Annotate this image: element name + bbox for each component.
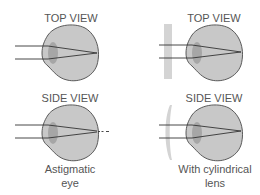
cylindrical-lens-top — [164, 24, 172, 79]
caption-astigmatic-line2: eye — [30, 177, 110, 190]
eye-top-corrected — [159, 24, 243, 81]
label-top-view-right: TOP VIEW — [185, 12, 243, 25]
cylindrical-lens-side — [166, 105, 173, 160]
eye-top-astigmatic — [15, 25, 99, 81]
caption-astigmatic-line1: Astigmatic — [30, 163, 110, 176]
caption-corrected-line2: lens — [170, 177, 260, 190]
label-top-view-left: TOP VIEW — [42, 12, 100, 25]
eye-side-corrected — [159, 105, 243, 161]
label-side-view-left: SIDE VIEW — [40, 92, 100, 105]
label-side-view-right: SIDE VIEW — [184, 92, 244, 105]
eye-side-astigmatic — [15, 105, 109, 161]
caption-corrected-line1: With cylindrical — [170, 163, 260, 176]
